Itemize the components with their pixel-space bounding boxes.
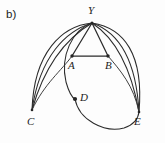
figure-container: b) Y A B C D E xyxy=(0,0,165,143)
vertex-dot-E xyxy=(138,111,141,114)
vertex-label-C: C xyxy=(27,116,34,127)
edge-Y-D-E-circle xyxy=(64,23,139,129)
vertex-dot-B xyxy=(106,54,109,57)
vertex-label-Y: Y xyxy=(88,5,94,16)
vertex-dot-D xyxy=(73,97,77,101)
vertex-dot-C xyxy=(31,109,34,112)
panel-label: b) xyxy=(6,9,16,21)
vertex-label-A: A xyxy=(68,60,75,71)
vertex-label-B: B xyxy=(105,60,112,71)
vertex-dot-Y xyxy=(91,22,94,25)
edge-Y-B xyxy=(92,23,108,56)
vertex-dot-A xyxy=(70,54,73,57)
edge-B-E xyxy=(108,56,139,112)
vertex-label-E: E xyxy=(134,116,141,127)
vertex-label-D: D xyxy=(80,92,88,103)
